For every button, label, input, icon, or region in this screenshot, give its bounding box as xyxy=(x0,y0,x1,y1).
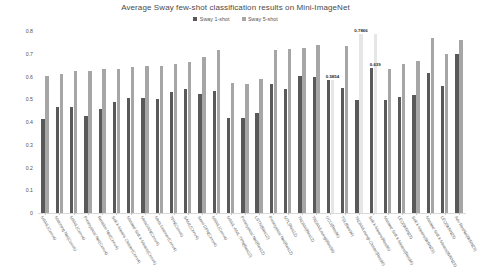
bar-1shot[interactable] xyxy=(227,118,230,213)
bar-group[interactable] xyxy=(152,31,166,213)
bar-group[interactable] xyxy=(223,31,237,213)
x-axis-tick-mark xyxy=(59,213,60,215)
bar-5shot[interactable] xyxy=(345,46,348,213)
bar-group[interactable] xyxy=(209,31,223,213)
y-axis-tick-label: 0.8 xyxy=(26,28,33,34)
x-axis-labels: MAML(Conv4)Matching Net(Conv4)MAML(Conv4… xyxy=(38,215,466,276)
bar-5shot[interactable] xyxy=(302,48,305,213)
bar-group[interactable] xyxy=(166,31,180,213)
bar-1shot[interactable] xyxy=(113,102,116,213)
bar-5shot[interactable] xyxy=(316,45,319,213)
bar-5shot[interactable] xyxy=(445,54,448,213)
bar-1shot[interactable] xyxy=(56,107,59,213)
bar-group[interactable] xyxy=(452,31,466,213)
bar-1shot[interactable] xyxy=(84,116,87,213)
bar-1shot[interactable] xyxy=(198,94,201,213)
bar-5shot[interactable] xyxy=(74,71,77,213)
bar-1shot[interactable] xyxy=(141,98,144,213)
bar-1shot[interactable] xyxy=(127,98,130,213)
bar-5shot[interactable] xyxy=(274,50,277,213)
bar-5shot[interactable] xyxy=(431,38,434,213)
bar-group[interactable] xyxy=(409,31,423,213)
bar-group[interactable] xyxy=(124,31,138,213)
bar-5shot[interactable] xyxy=(88,71,91,213)
bar-5shot[interactable] xyxy=(359,34,362,213)
bar-group[interactable] xyxy=(338,31,352,213)
bar-group[interactable] xyxy=(38,31,52,213)
bar-1shot[interactable] xyxy=(370,68,373,213)
bar-1shot[interactable] xyxy=(398,97,401,213)
bar-1shot[interactable] xyxy=(298,76,301,213)
bar-1shot[interactable] xyxy=(213,91,216,213)
bar-5shot[interactable] xyxy=(117,69,120,213)
bar-group[interactable] xyxy=(281,31,295,213)
bar-group[interactable] xyxy=(67,31,81,213)
bar-1shot[interactable] xyxy=(455,54,458,213)
bar-1shot[interactable] xyxy=(355,100,358,213)
bar-group[interactable] xyxy=(437,31,451,213)
bar-1shot[interactable] xyxy=(441,86,444,213)
bar-5shot[interactable] xyxy=(259,79,262,213)
bar-1shot[interactable] xyxy=(384,100,387,213)
bar-group[interactable] xyxy=(366,31,380,213)
bar-group[interactable] xyxy=(81,31,95,213)
bar-group[interactable] xyxy=(238,31,252,213)
bar-group[interactable] xyxy=(423,31,437,213)
bar-5shot[interactable] xyxy=(160,66,163,213)
bar-1shot[interactable] xyxy=(427,73,430,213)
bar-5shot[interactable] xyxy=(416,61,419,213)
bar-5shot[interactable] xyxy=(188,62,191,214)
bar-5shot[interactable] xyxy=(174,64,177,213)
bar-5shot[interactable] xyxy=(331,80,334,213)
bar-5shot[interactable] xyxy=(217,50,220,213)
bar-5shot[interactable] xyxy=(131,67,134,214)
bar-5shot[interactable] xyxy=(231,83,234,213)
x-axis-tick-mark xyxy=(102,213,103,215)
bar-group[interactable] xyxy=(323,31,337,213)
bar-1shot[interactable] xyxy=(284,89,287,213)
bar-1shot[interactable] xyxy=(270,84,273,213)
bar-1shot[interactable] xyxy=(327,80,330,213)
bar-5shot[interactable] xyxy=(60,74,63,213)
chart-title: Average Sway few-shot classification res… xyxy=(0,3,471,12)
bar-5shot[interactable] xyxy=(102,69,105,213)
y-axis-tick-label: 0.2 xyxy=(26,165,33,171)
bar-5shot[interactable] xyxy=(202,57,205,213)
bar-5shot[interactable] xyxy=(388,69,391,213)
x-axis-tick-mark xyxy=(116,213,117,215)
bar-group[interactable] xyxy=(395,31,409,213)
bar-5shot[interactable] xyxy=(245,84,248,213)
x-axis-tick-mark xyxy=(388,213,389,215)
bar-group[interactable] xyxy=(181,31,195,213)
bar-1shot[interactable] xyxy=(313,77,316,213)
bar-1shot[interactable] xyxy=(412,95,415,213)
bar-group[interactable] xyxy=(195,31,209,213)
bar-5shot[interactable] xyxy=(45,76,48,213)
bar-1shot[interactable] xyxy=(41,119,44,213)
bar-5shot[interactable] xyxy=(402,64,405,213)
bar-5shot[interactable] xyxy=(459,40,462,213)
bar-group[interactable] xyxy=(138,31,152,213)
bar-1shot[interactable] xyxy=(241,118,244,213)
bar-1shot[interactable] xyxy=(70,107,73,213)
bar-1shot[interactable] xyxy=(255,113,258,213)
bar-5shot[interactable] xyxy=(288,49,291,213)
bar-group[interactable] xyxy=(95,31,109,213)
bar-group[interactable] xyxy=(52,31,66,213)
bar-group[interactable] xyxy=(380,31,394,213)
bar-1shot[interactable] xyxy=(99,109,102,213)
bar-5shot[interactable] xyxy=(145,66,148,213)
bar-group[interactable] xyxy=(252,31,266,213)
bar-group[interactable] xyxy=(352,31,366,213)
bar-1shot[interactable] xyxy=(184,89,187,213)
legend-item-1shot[interactable]: Sway 1-shot xyxy=(193,16,229,22)
bar-1shot[interactable] xyxy=(341,88,344,213)
legend-item-5shot[interactable]: Sway 5-shot xyxy=(242,16,278,22)
bar-group[interactable] xyxy=(109,31,123,213)
bar-group[interactable] xyxy=(266,31,280,213)
bar-1shot[interactable] xyxy=(156,99,159,213)
bar-group[interactable] xyxy=(309,31,323,213)
bar-group[interactable] xyxy=(295,31,309,213)
bar-1shot[interactable] xyxy=(170,92,173,213)
x-axis-tick-mark xyxy=(145,213,146,215)
